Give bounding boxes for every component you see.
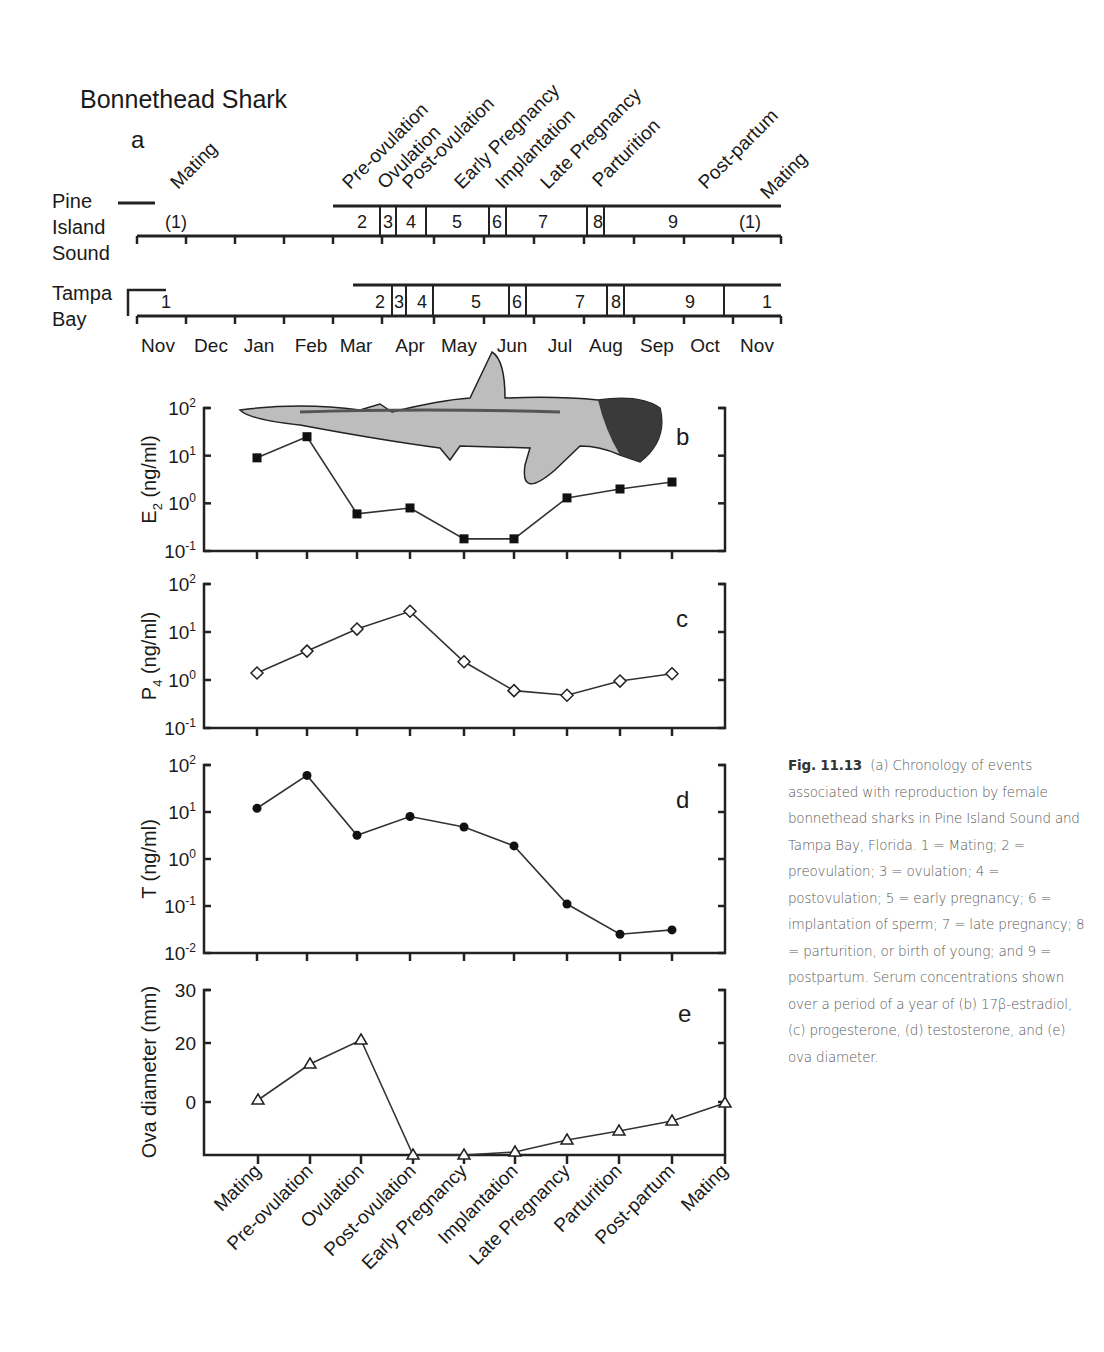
y-tick-label: 101 [168,620,196,643]
pine-stage-segment: (1) [165,212,187,232]
figure-number: Fig. 11.13 [788,757,862,773]
month-label: Jul [548,335,572,356]
tampa-stage-segment: 4 [417,292,427,312]
panel-letter: e [678,1000,691,1027]
data-point [351,623,363,635]
data-point [510,841,519,850]
y-tick-label: 101 [168,800,196,823]
y-tick-label: 10-1 [164,539,196,562]
month-label: Dec [194,335,228,356]
month-label: Nov [141,335,175,356]
row-label-pine-island-sound: Pine [52,190,92,212]
tampa-stage-segment: 5 [471,292,481,312]
row-label-pine-island-sound: Island [52,216,105,238]
caption-text: (a) Chronology of events associated with… [788,757,1084,1065]
month-label: Nov [740,335,774,356]
row-label-tampa-bay: Tampa [52,282,113,304]
pine-stage-segment: 5 [452,212,462,232]
data-point [253,453,262,462]
tampa-stage-segment: 3 [394,292,404,312]
row-label-tampa-bay: Bay [52,308,86,330]
panel-a-label: a [131,126,145,153]
data-point [561,689,573,701]
data-point [563,900,572,909]
data-point [563,493,572,502]
data-point [303,432,312,441]
data-point [355,1034,367,1044]
y-axis-label: E2 (ng/ml) [138,435,165,523]
tampa-stage-segment: 1 [762,292,772,312]
pine-stage-segment: 8 [593,212,603,232]
figure-caption: Fig. 11.13 (a) Chronology of events asso… [788,752,1088,1070]
tampa-stage-segment: 8 [611,292,621,312]
data-point [406,812,415,821]
data-point [253,804,262,813]
data-point [666,668,678,680]
y-tick-label: 0 [185,1092,196,1113]
y-tick-label: 102 [168,753,196,776]
month-label: Sep [640,335,674,356]
data-point [668,925,677,934]
y-axis-label: P4 (ng/ml) [138,612,165,700]
stage-label: Mating [166,138,221,193]
y-tick-label: 20 [175,1033,196,1054]
pine-stage-segment: 9 [668,212,678,232]
tampa-stage-segment: 2 [375,292,385,312]
data-point [406,503,415,512]
y-tick-label: 100 [168,491,196,514]
data-point [353,509,362,518]
panel-c: 10210110010-1cP4 (ng/ml) [138,572,725,739]
y-tick-label: 100 [168,847,196,870]
hormone-panels: 10210110010-1bE2 (ng/ml)10210110010-1cP4… [138,396,732,1273]
data-point [353,831,362,840]
data-point [304,1058,316,1068]
y-tick-label: 10-2 [164,941,196,964]
panel-letter: b [676,423,689,450]
panel-d: 10210110010-110-2dT (ng/ml) [138,753,725,964]
y-tick-label: 102 [168,396,196,419]
data-point [301,645,313,657]
y-tick-label: 100 [168,668,196,691]
data-point [460,534,469,543]
y-tick-label: 102 [168,572,196,595]
pine-stage-segment: 7 [538,212,548,232]
data-point [251,667,263,679]
y-tick-label: 10-1 [164,894,196,917]
row-label-pine-island-sound: Sound [52,242,110,264]
shark-illustration [240,352,662,484]
x-tick-label: Mating [677,1160,732,1215]
pine-stage-segment: 2 [357,212,367,232]
data-point [510,534,519,543]
pine-stage-segment: (1) [739,212,761,232]
month-label: Feb [295,335,328,356]
y-tick-label: 10-1 [164,716,196,739]
data-point [616,484,625,493]
data-point [252,1094,264,1104]
panel-e: 30200eOva diameter (mm)MatingPre-ovulati… [138,980,732,1273]
panel-letter: c [676,605,688,632]
month-label: Aug [589,335,623,356]
data-point [614,675,626,687]
y-axis-label: Ova diameter (mm) [138,986,160,1158]
data-point [616,930,625,939]
month-label: Mar [340,335,373,356]
month-label: Oct [690,335,720,356]
pine-stage-segment: 4 [406,212,416,232]
y-tick-label: 30 [175,980,196,1001]
y-tick-label: 101 [168,444,196,467]
tampa-stage-segment: 1 [161,292,171,312]
tampa-stage-segment: 6 [512,292,522,312]
stage-label: Mating [756,148,811,203]
pine-stage-segment: 3 [383,212,393,232]
data-point [460,822,469,831]
month-label: May [441,335,477,356]
tampa-stage-segment: 7 [575,292,585,312]
month-label: Jan [244,335,275,356]
data-point [508,685,520,697]
figure: Bonnethead Shark a PineIslandSoundTampaB… [0,0,1104,1352]
data-point [303,771,312,780]
data-point [668,478,677,487]
month-label: Jun [497,335,528,356]
y-axis-label: T (ng/ml) [138,819,160,899]
figure-title: Bonnethead Shark [80,85,288,113]
